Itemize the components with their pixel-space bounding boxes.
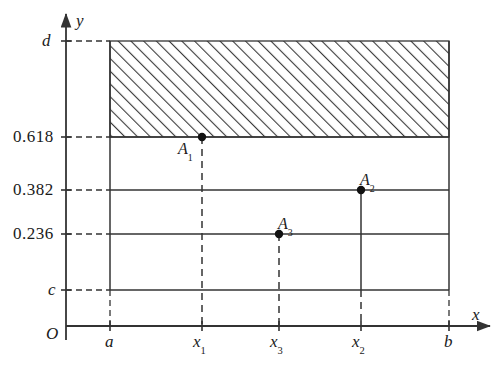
data-point-A1[interactable] (198, 133, 206, 141)
y-axis-label: y (76, 12, 84, 29)
point-label-A1-text: A (178, 140, 188, 157)
y-tick-label-0236: 0.236 (13, 225, 54, 242)
point-label-A3-text: A (278, 215, 288, 232)
point-label-A1-sub: 1 (188, 152, 193, 163)
diagram-svg (0, 0, 503, 365)
x-tick-label-a-text: a (105, 332, 114, 351)
point-label-A3: A3 (278, 216, 293, 235)
x-tick-label-b-text: b (444, 332, 453, 351)
x-tick-label-a: a (105, 333, 114, 350)
y-tick-label-0618: 0.618 (13, 128, 54, 145)
point-label-A1: A1 (178, 141, 193, 160)
y-tick-label-0382: 0.382 (13, 181, 54, 198)
x-tick-label-b: b (444, 333, 453, 350)
y-tick-label-c: c (48, 281, 56, 298)
x-tick-label-x2-sub: 2 (360, 345, 365, 356)
x-axis-label: x (472, 306, 480, 323)
hatched-band (110, 41, 449, 137)
y-tick-label-d: d (42, 32, 51, 49)
x-tick-label-x1: x1 (193, 333, 206, 354)
point-label-A3-sub: 3 (288, 227, 293, 238)
x-tick-label-x3: x3 (270, 333, 283, 354)
point-label-A2-sub: 2 (370, 183, 375, 194)
point-label-A2-text: A (360, 171, 370, 188)
x-tick-label-x1-text: x (193, 332, 201, 351)
x-tick-label-x3-sub: 3 (278, 345, 283, 356)
point-label-A2: A2 (360, 172, 375, 191)
x-tick-label-x2-text: x (352, 332, 360, 351)
x-tick-label-x1-sub: 1 (201, 345, 206, 356)
x-tick-label-x2: x2 (352, 333, 365, 354)
figure-canvas: y x O d 0.618 0.382 0.236 c a x1 x3 x2 b… (0, 0, 503, 365)
x-tick-label-x3-text: x (270, 332, 278, 351)
origin-label: O (46, 325, 58, 342)
